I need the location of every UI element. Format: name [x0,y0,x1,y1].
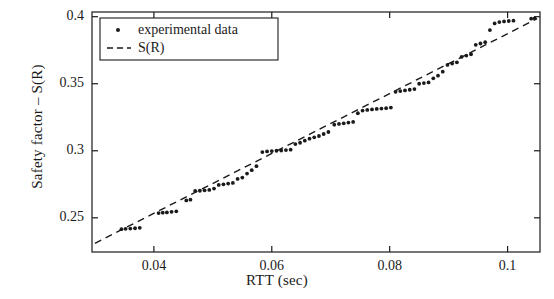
x-tick-label: 0.08 [360,258,420,274]
x-axis-label: RTT (sec) [0,272,554,289]
x-tick-label: 0.04 [124,258,184,274]
y-tick-label: 0.25 [32,209,84,225]
legend-label-sr: S(R) [138,40,164,56]
legend-label-experimental-data: experimental data [138,22,238,38]
y-axis-label: Safety factor – S(R) [29,12,46,242]
x-tick-label: 0.1 [478,258,538,274]
y-tick-label: 0.4 [32,8,84,24]
legend-marker-dot [116,28,120,32]
chart-figure: Safety factor – S(R) RTT (sec) 0.040.060… [0,0,554,299]
y-tick-label: 0.3 [32,142,84,158]
x-tick-label: 0.06 [242,258,302,274]
y-tick-label: 0.35 [32,75,84,91]
